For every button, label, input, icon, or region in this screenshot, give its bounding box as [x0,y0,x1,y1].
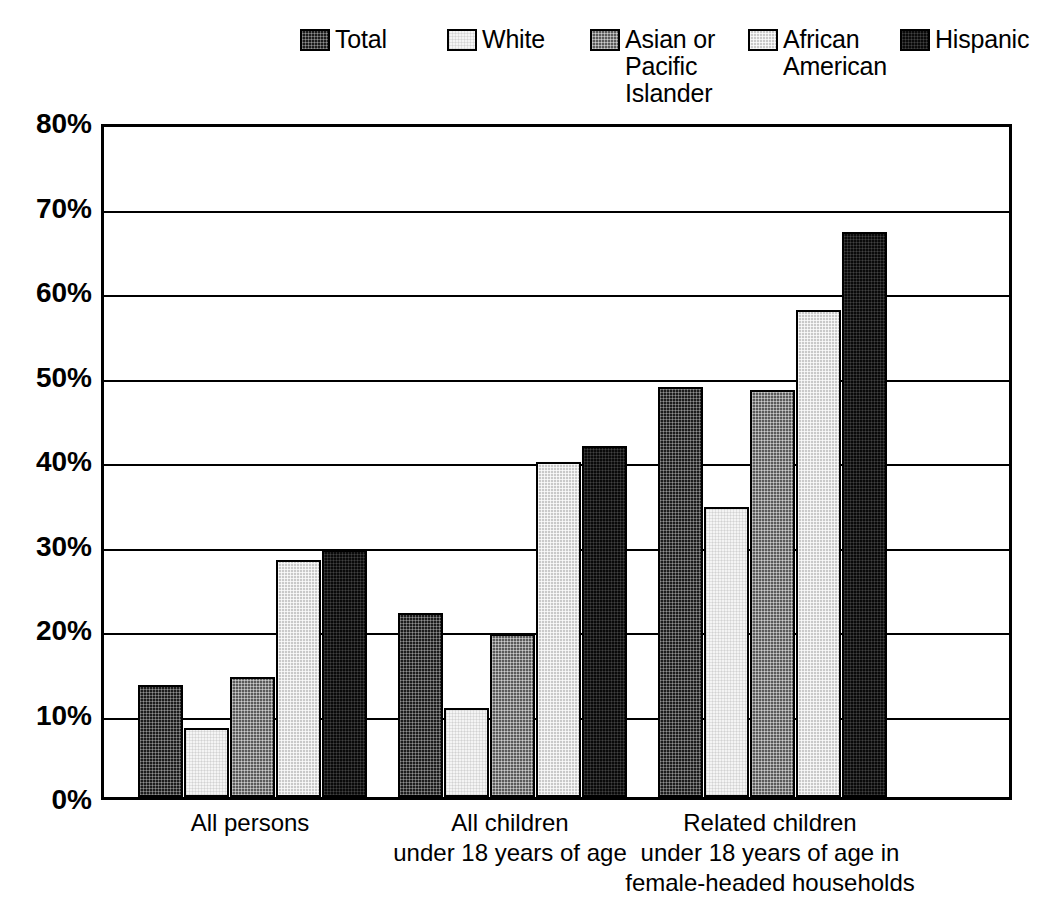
legend-swatch-african-american [748,29,778,51]
x-group-label-2: Related children under 18 years of age i… [570,808,970,898]
bar-1-4[interactable] [582,446,627,797]
legend-label-2: Asian or Pacific Islander [625,26,715,107]
plot-area [101,124,1012,800]
bar-0-3[interactable] [276,560,321,797]
bar-0-4[interactable] [322,550,367,797]
legend-item-0[interactable]: Total [300,26,387,53]
y-tick-label-50: 50% [8,364,92,392]
legend-swatch-white [447,29,477,51]
legend-label-4: Hispanic [935,26,1029,53]
legend-swatch-asian [590,29,620,51]
y-tick-label-70: 70% [8,195,92,223]
bar-1-3[interactable] [536,462,581,797]
legend-swatch-hispanic [900,29,930,51]
y-axis: 80%70%60%50%40%30%20%10%0% [0,124,92,800]
y-tick-label-60: 60% [8,279,92,307]
bar-0-1[interactable] [184,728,229,797]
legend-item-3[interactable]: African American [748,26,887,80]
y-tick-label-40: 40% [8,448,92,476]
bar-2-0[interactable] [658,387,703,797]
bar-1-1[interactable] [444,708,489,797]
legend-item-1[interactable]: White [447,26,545,53]
legend-item-4[interactable]: Hispanic [900,26,1029,53]
bar-2-2[interactable] [750,390,795,797]
bar-2-3[interactable] [796,310,841,797]
y-tick-label-80: 80% [8,110,92,138]
legend-label-0: Total [335,26,387,53]
legend-swatch-total [300,29,330,51]
legend-label-3: African American [783,26,887,80]
bar-2-1[interactable] [704,507,749,797]
bars-layer [104,127,1009,797]
legend-label-1: White [482,26,545,53]
bar-0-2[interactable] [230,677,275,797]
bar-1-2[interactable] [490,634,535,797]
legend-item-2[interactable]: Asian or Pacific Islander [590,26,715,107]
y-tick-label-10: 10% [8,702,92,730]
bar-2-4[interactable] [842,232,887,797]
bar-1-0[interactable] [398,613,443,797]
y-tick-label-20: 20% [8,617,92,645]
bar-0-0[interactable] [138,685,183,797]
x-axis-labels: All personsAll children under 18 years o… [101,808,1012,918]
y-tick-label-30: 30% [8,533,92,561]
chart-legend: TotalWhiteAsian or Pacific IslanderAfric… [300,26,1040,118]
